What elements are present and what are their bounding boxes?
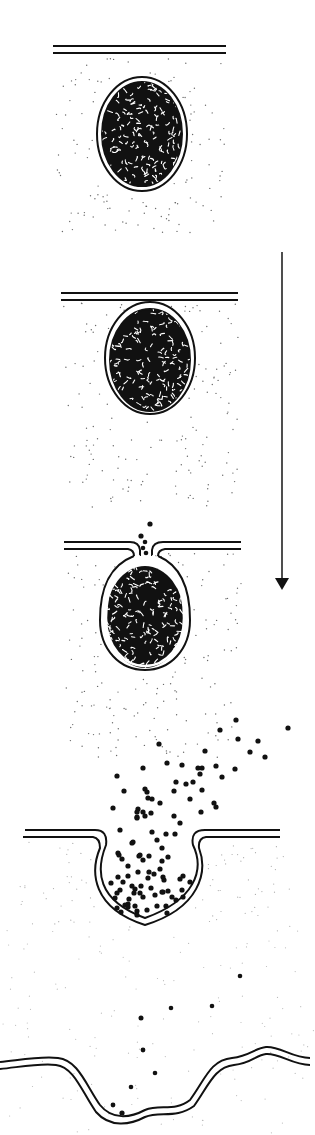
diagram-canvas <box>0 0 314 1135</box>
plasma-membrane-with-pore <box>64 542 241 556</box>
fusing-vesicle <box>100 556 190 672</box>
plasma-membrane-pocket <box>23 830 280 925</box>
cytoplasm-dots <box>3 930 315 1133</box>
stage-4 <box>20 717 291 931</box>
cytoplasm-dots <box>20 842 291 932</box>
sequence-arrow <box>275 252 289 590</box>
exocytosis-diagram: Exocytosis of a secretory vesicle <box>0 0 314 1135</box>
docked-vesicle <box>105 302 195 414</box>
stage-2 <box>61 293 239 508</box>
plasma-membrane-incorporated <box>0 1047 310 1124</box>
stage-5 <box>0 930 314 1133</box>
plasma-membrane <box>61 293 238 300</box>
released-granules <box>111 974 243 1116</box>
stage-3 <box>64 521 242 758</box>
stage-1 <box>53 46 226 233</box>
secretory-vesicle <box>97 77 187 191</box>
plasma-membrane <box>53 46 226 53</box>
released-granules <box>108 717 290 917</box>
